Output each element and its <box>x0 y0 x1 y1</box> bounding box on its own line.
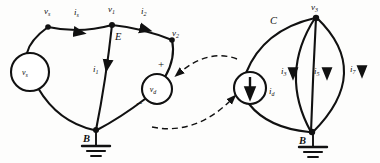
wire-v2-to-vd <box>165 40 173 77</box>
wire-v1-to-B <box>96 25 112 130</box>
i5-current-label: i5 <box>314 66 320 77</box>
is-arrow <box>74 32 80 33</box>
wire-vs-source-to-B <box>38 88 94 130</box>
B-node-label-right: B <box>298 135 306 146</box>
v3-node-dot <box>313 15 319 21</box>
v3-node-label: v3 <box>311 2 318 13</box>
right-ground-icon <box>299 147 327 157</box>
v2-node-dot <box>169 37 175 43</box>
vs-source-body <box>11 53 49 91</box>
i7-current-label: i7 <box>350 64 357 75</box>
B-node-dot-left <box>93 127 99 133</box>
circuit-diagram: vs v1 v2 B is i2 i1 vs vd + − E C v3 B i… <box>0 0 380 163</box>
map-arrow-upper <box>178 56 237 74</box>
vd-source-body <box>142 74 172 104</box>
i1-current-label: i1 <box>93 64 99 75</box>
i2-current-label: i2 <box>141 6 147 17</box>
v1-node-dot <box>109 22 115 28</box>
B-node-label-left: B <box>82 133 90 144</box>
is-current-label: is <box>74 7 80 18</box>
i1-arrow <box>107 60 108 66</box>
id-source-label: id <box>269 86 276 97</box>
vs-node-dot <box>45 24 51 30</box>
v1-node-label: v1 <box>108 4 115 15</box>
wire-vs-to-v1 <box>48 25 112 30</box>
vd-minus-sign: − <box>136 97 142 109</box>
v2-node-label: v2 <box>172 28 179 39</box>
E-region-label: E <box>114 31 122 42</box>
vs-node-label: vs <box>44 6 51 17</box>
i3-current-label: i3 <box>281 66 287 77</box>
C-region-label: C <box>270 15 278 26</box>
wire-vs-node-to-source <box>27 27 48 53</box>
arc-outer-left-top <box>246 18 315 73</box>
vd-plus-sign: + <box>158 58 164 70</box>
left-ground-icon <box>82 146 110 156</box>
circuit-canvas: vs v1 v2 B is i2 i1 vs vd + − E C v3 B i… <box>0 0 380 163</box>
B-node-dot-right <box>309 129 315 135</box>
